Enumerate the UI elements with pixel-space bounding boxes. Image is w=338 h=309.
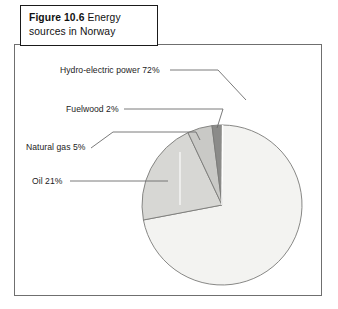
callout-label-fuelwood: Fuelwood 2% [66,105,119,114]
pie-chart [0,0,338,309]
callout-label-natural-gas: Natural gas 5% [26,143,85,152]
callout-label-oil: Oil 21% [32,177,62,186]
figure-caption-label: Figure 10.6 [29,12,84,23]
figure-caption-box: Figure 10.6 Energy sources in Norway [20,5,158,46]
leader-line-fuelwood [124,109,223,128]
leader-line-hydro-electric-power [170,70,246,100]
slice-gap-hydro [222,125,223,205]
figure-root: Hydro-electric power 72% Fuelwood 2% Nat… [0,0,338,309]
callout-label-hydro-electric-power: Hydro-electric power 72% [60,66,160,75]
